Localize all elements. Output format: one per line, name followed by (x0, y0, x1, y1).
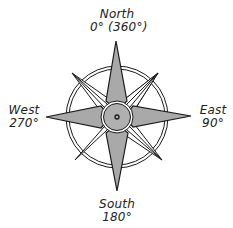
center-hub (101, 101, 133, 133)
point-west (46, 106, 110, 128)
north-degrees: 0° (360°) (90, 21, 144, 33)
label-west: West 270° (2, 104, 46, 129)
point-east (124, 106, 191, 127)
point-north (106, 41, 127, 110)
point-south (106, 124, 128, 191)
west-direction: West (2, 104, 46, 116)
east-degrees: 90° (194, 117, 232, 129)
label-north: North 0° (360°) (90, 8, 144, 33)
label-east: East 90° (194, 104, 232, 129)
south-degrees: 180° (90, 211, 144, 223)
west-degrees: 270° (2, 117, 46, 129)
north-direction: North (90, 8, 144, 20)
south-direction: South (90, 198, 144, 210)
east-direction: East (194, 104, 232, 116)
label-south: South 180° (90, 198, 144, 223)
